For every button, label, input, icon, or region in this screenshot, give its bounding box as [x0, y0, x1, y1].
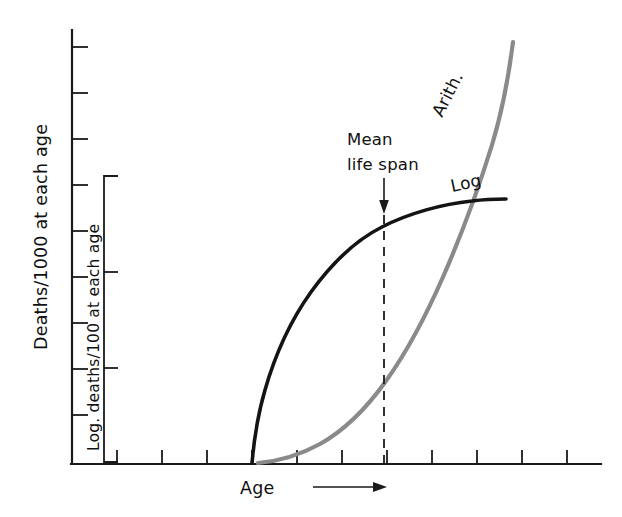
mean-life-span-label-line2: life span: [347, 155, 419, 174]
age-axis-arrow: [313, 482, 387, 492]
y-axis-primary-label: Deaths/1000 at each age: [31, 124, 51, 350]
chart-canvas: Deaths/1000 at each age Log. deaths/100 …: [0, 0, 622, 517]
x-axis-label: Age: [240, 478, 274, 498]
arrow-head-right-icon: [373, 482, 387, 492]
y-axis-secondary-bracket: [104, 176, 118, 462]
mean-life-span-label-line1: Mean: [347, 130, 393, 149]
y-axis-secondary-label: Log. deaths/100 at each age: [85, 224, 103, 451]
mean-life-span-arrow: [379, 178, 389, 214]
x-axis: [71, 450, 601, 464]
curve-label-arith: Arith.: [428, 69, 467, 120]
mortality-curves-figure: Deaths/1000 at each age Log. deaths/100 …: [0, 0, 622, 517]
curve-arithmetic: [258, 42, 513, 463]
arrow-head-down-icon: [379, 200, 389, 214]
y-axis-secondary: [104, 176, 118, 462]
curve-log: [252, 199, 506, 463]
